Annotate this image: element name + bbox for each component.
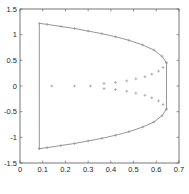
y-tick-label: 1.5: [7, 5, 17, 14]
y-tick-label: -0.5: [4, 107, 17, 116]
plot-canvas: 1.510.50-0.5-1-1.5 00.10.20.30.40.50.60.…: [0, 0, 189, 194]
y-tick-label: 0.5: [7, 56, 17, 65]
x-tick-label: 0: [18, 165, 22, 174]
x-tick-label: 0.1: [37, 165, 47, 174]
x-tick-label: 0.5: [128, 165, 138, 174]
x-tick-label: 0.4: [106, 165, 116, 174]
y-tick-label: 0: [13, 82, 17, 91]
y-tick-label: -1: [10, 133, 17, 142]
y-tick-label: -1.5: [4, 159, 17, 168]
axes-box: [20, 9, 179, 163]
y-tick-label: 1: [13, 30, 17, 39]
x-tick-label: 0.2: [60, 165, 70, 174]
x-tick-label: 0.6: [151, 165, 161, 174]
x-tick-label: 0.7: [174, 165, 184, 174]
x-tick-label: 0.3: [83, 165, 93, 174]
